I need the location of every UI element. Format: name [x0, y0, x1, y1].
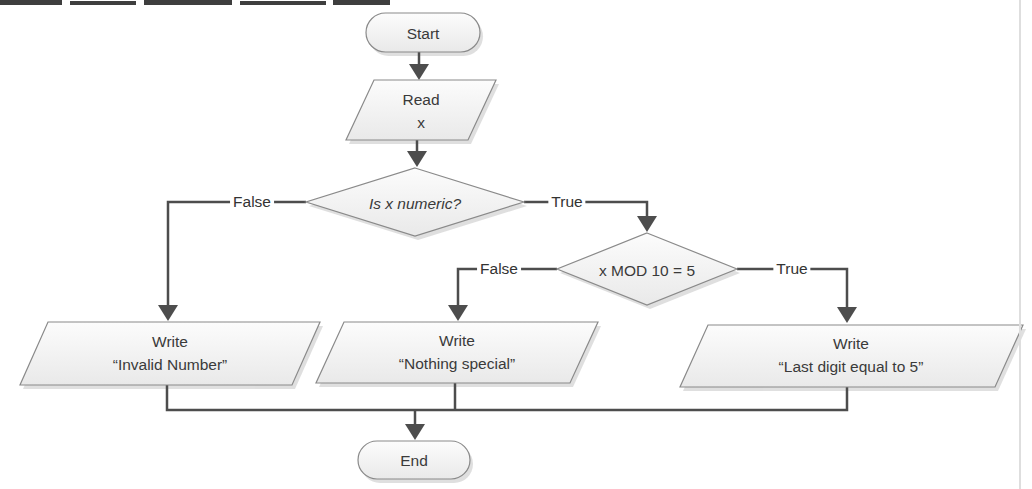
shape-shadows — [23, 17, 1026, 483]
decision1-label: Is x numeric? — [369, 192, 461, 215]
write-invalid-line2: “Invalid Number” — [113, 353, 228, 376]
scan-artifact-strip — [144, 0, 232, 5]
write-nothing-label: Write “Nothing special” — [399, 329, 515, 375]
arrowhead-read-decision1 — [407, 151, 427, 167]
decision2-label: x MOD 10 = 5 — [599, 259, 695, 282]
arrowhead-true2 — [837, 307, 857, 323]
write-invalid-line1: Write — [113, 330, 228, 353]
end-label: End — [400, 449, 428, 472]
arrowhead-false1 — [158, 305, 178, 321]
flowchart-canvas: Start Read x Is x numeric? x MOD 10 = 5 … — [0, 0, 1032, 489]
flowchart-shapes-layer — [0, 0, 1032, 489]
edge-label-mod-true: True — [773, 260, 810, 278]
write-last-digit-label: Write “Last digit equal to 5” — [779, 332, 924, 378]
edge-label-mod-false: False — [477, 260, 521, 278]
read-label: Read x — [402, 88, 439, 134]
read-label-line1: Read — [402, 88, 439, 111]
write-nothing-line1: Write — [399, 329, 515, 352]
write-nothing-line2: “Nothing special” — [399, 352, 515, 375]
arrowhead-false2 — [448, 305, 468, 321]
connector-decision1-false — [168, 202, 306, 306]
start-label: Start — [407, 22, 440, 45]
edge-label-numeric-false: False — [230, 193, 274, 211]
arrowhead-end — [405, 424, 425, 440]
scan-artifact-strip — [0, 0, 62, 5]
write-invalid-label: Write “Invalid Number” — [113, 330, 228, 376]
arrowhead-true1 — [637, 216, 657, 232]
scan-artifact-strip — [333, 0, 390, 5]
arrowhead-start-read — [409, 64, 429, 80]
edge-label-numeric-true: True — [548, 193, 585, 211]
write-last-digit-line2: “Last digit equal to 5” — [779, 355, 924, 378]
scan-artifact-strip — [240, 1, 326, 5]
read-label-line2: x — [402, 111, 439, 134]
scan-artifact-strip — [70, 1, 136, 5]
page-edge-line — [1019, 0, 1021, 489]
write-last-digit-line1: Write — [779, 332, 924, 355]
